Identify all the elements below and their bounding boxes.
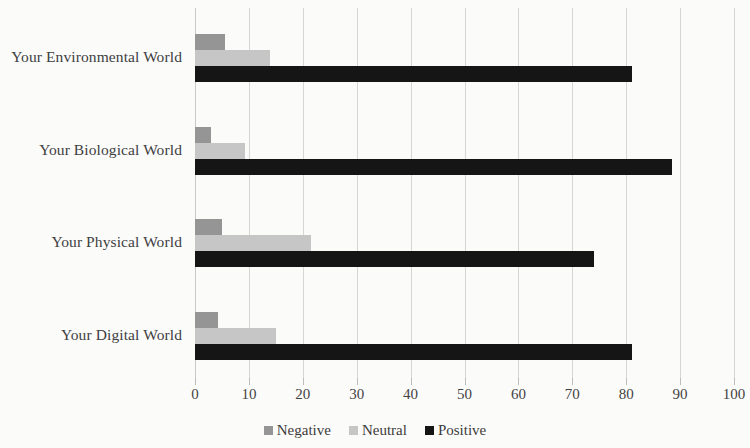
category-axis: Your Environmental WorldYour Biological … bbox=[0, 8, 188, 378]
x-tick-label-50: 50 bbox=[457, 386, 472, 403]
legend-swatch-neutral-icon bbox=[349, 426, 358, 435]
tickmark-0 bbox=[195, 378, 196, 385]
bar-negative-3 bbox=[195, 312, 218, 328]
chart-legend: NegativeNeutralPositive bbox=[0, 418, 750, 442]
tickmark-30 bbox=[357, 378, 358, 385]
gridline-80 bbox=[626, 8, 627, 378]
bar-negative-2 bbox=[195, 219, 222, 235]
x-axis-tick-labels: 0102030405060708090100 bbox=[195, 386, 734, 408]
tickmark-80 bbox=[626, 378, 627, 385]
legend-label: Negative bbox=[277, 422, 331, 439]
bar-neutral-1 bbox=[195, 143, 245, 159]
x-tick-label-70: 70 bbox=[565, 386, 580, 403]
x-tick-label-0: 0 bbox=[191, 386, 199, 403]
plot-area bbox=[195, 8, 734, 378]
x-tick-label-60: 60 bbox=[511, 386, 526, 403]
gridline-70 bbox=[572, 8, 573, 378]
bar-positive-3 bbox=[195, 344, 632, 360]
x-tick-label-100: 100 bbox=[723, 386, 746, 403]
tickmark-50 bbox=[465, 378, 466, 385]
tickmark-100 bbox=[734, 378, 735, 385]
x-tick-label-40: 40 bbox=[403, 386, 418, 403]
x-tick-label-20: 20 bbox=[295, 386, 310, 403]
legend-item-negative[interactable]: Negative bbox=[264, 422, 331, 439]
bar-neutral-0 bbox=[195, 50, 270, 66]
category-label-1: Your Biological World bbox=[39, 141, 182, 159]
tickmark-70 bbox=[572, 378, 573, 385]
bar-chart: Your Environmental WorldYour Biological … bbox=[0, 0, 750, 448]
legend-item-neutral[interactable]: Neutral bbox=[349, 422, 407, 439]
bar-neutral-3 bbox=[195, 328, 276, 344]
gridline-20 bbox=[303, 8, 304, 378]
tickmark-90 bbox=[680, 378, 681, 385]
bar-positive-1 bbox=[195, 159, 672, 175]
legend-swatch-positive-icon bbox=[425, 426, 434, 435]
legend-label: Positive bbox=[438, 422, 486, 439]
gridline-30 bbox=[357, 8, 358, 378]
category-label-2: Your Physical World bbox=[51, 233, 182, 251]
tickmark-10 bbox=[249, 378, 250, 385]
tickmark-20 bbox=[303, 378, 304, 385]
legend-item-positive[interactable]: Positive bbox=[425, 422, 486, 439]
gridline-60 bbox=[518, 8, 519, 378]
legend-label: Neutral bbox=[362, 422, 407, 439]
gridline-90 bbox=[680, 8, 681, 378]
bar-positive-2 bbox=[195, 251, 594, 267]
bar-negative-1 bbox=[195, 127, 211, 143]
bar-negative-0 bbox=[195, 34, 225, 50]
bar-neutral-2 bbox=[195, 235, 311, 251]
gridline-100 bbox=[734, 8, 735, 378]
bar-positive-0 bbox=[195, 66, 632, 82]
x-tick-label-80: 80 bbox=[619, 386, 634, 403]
legend-swatch-negative-icon bbox=[264, 426, 273, 435]
tickmark-60 bbox=[518, 378, 519, 385]
gridline-50 bbox=[465, 8, 466, 378]
category-label-3: Your Digital World bbox=[61, 326, 182, 344]
gridline-40 bbox=[411, 8, 412, 378]
tickmark-40 bbox=[411, 378, 412, 385]
category-label-0: Your Environmental World bbox=[11, 48, 182, 66]
x-tick-label-10: 10 bbox=[241, 386, 256, 403]
x-tick-label-30: 30 bbox=[349, 386, 364, 403]
x-tick-label-90: 90 bbox=[673, 386, 688, 403]
